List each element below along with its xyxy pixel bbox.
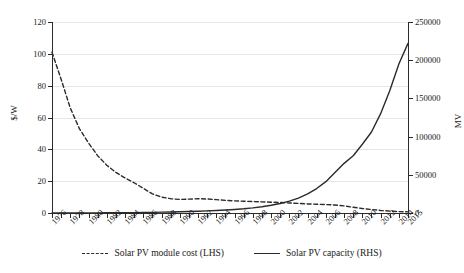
y-tick-label-left: 80 [16,82,46,91]
y-tick-label-left: 40 [16,145,46,154]
y-tick-label-right: 100000 [415,133,441,142]
legend-item-capacity: Solar PV capacity (RHS) [254,248,382,258]
solid-line-icon [254,253,280,254]
y-axis-right [408,22,409,214]
y-tick-right [409,98,413,99]
y-tick-label-right: 150000 [415,94,441,103]
y-tick-left [48,22,52,23]
y-tick-label-left: 120 [16,18,46,27]
y-tick-right [409,22,413,23]
series-line-cost [52,52,408,212]
y-tick-label-left: 20 [16,177,46,186]
y-tick-label-left: 100 [16,50,46,59]
plot-area [52,22,408,213]
y-tick-left [48,149,52,150]
y-tick-left [48,54,52,55]
series-line-capacity [52,43,408,213]
y-tick-left [48,86,52,87]
y-tick-right [409,60,413,61]
chart-legend: Solar PV module cost (LHS) Solar PV capa… [0,248,464,258]
solar-pv-chart: $/W MV Solar PV module cost (LHS) Solar … [0,0,464,273]
y-tick-left [48,181,52,182]
y-tick-right [409,137,413,138]
legend-item-cost: Solar PV module cost (LHS) [82,248,224,258]
y-tick-label-left: 0 [16,209,46,218]
series-layer [52,22,408,213]
legend-label-cost: Solar PV module cost (LHS) [114,248,224,258]
y-tick-label-left: 60 [16,114,46,123]
dashed-line-icon [82,253,108,254]
y-tick-label-right: 50000 [415,171,436,180]
legend-label-capacity: Solar PV capacity (RHS) [286,248,382,258]
y-tick-label-right: 250000 [415,18,441,27]
y-tick-right [409,175,413,176]
y-tick-label-right: 200000 [415,56,441,65]
y-tick-left [48,118,52,119]
y-axis-right-title: MV [454,114,464,129]
y-axis-left [52,22,53,214]
